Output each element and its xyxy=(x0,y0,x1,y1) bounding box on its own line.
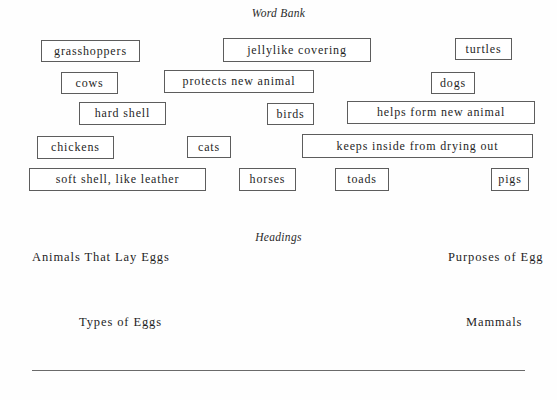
word-bank-box[interactable]: cats xyxy=(187,136,231,158)
word-bank-box-label: keeps inside from drying out xyxy=(337,140,499,152)
word-bank-box-label: grasshoppers xyxy=(54,45,127,57)
word-bank-box[interactable]: chickens xyxy=(37,136,114,159)
word-bank-box[interactable]: keeps inside from drying out xyxy=(302,134,533,158)
word-bank-box[interactable]: grasshoppers xyxy=(41,40,140,62)
word-bank-box-label: jellylike covering xyxy=(247,44,347,56)
word-bank-box-label: hard shell xyxy=(95,107,151,119)
headings-title: Headings xyxy=(0,231,557,243)
heading-label[interactable]: Types of Eggs xyxy=(79,316,162,329)
word-bank-box-label: soft shell, like leather xyxy=(56,173,180,185)
word-bank-box[interactable]: birds xyxy=(267,103,314,125)
word-bank-box[interactable]: protects new animal xyxy=(164,70,314,93)
word-bank-box-label: turtles xyxy=(466,43,502,55)
word-bank-box[interactable]: jellylike covering xyxy=(223,38,371,62)
bottom-horizontal-rule xyxy=(32,370,525,371)
word-bank-box[interactable]: hard shell xyxy=(79,102,166,125)
word-bank-box[interactable]: toads xyxy=(335,168,389,191)
word-bank-box[interactable]: helps form new animal xyxy=(347,101,535,124)
word-bank-box-label: cats xyxy=(198,141,220,153)
word-bank-box-label: protects new animal xyxy=(183,75,296,87)
heading-label[interactable]: Purposes of Egg xyxy=(448,251,543,264)
word-bank-box-label: dogs xyxy=(440,77,466,89)
word-bank-box-label: birds xyxy=(276,108,304,120)
word-bank-box[interactable]: cows xyxy=(61,72,118,94)
word-bank-box-label: cows xyxy=(75,77,103,89)
word-bank-box-label: toads xyxy=(347,173,377,185)
word-bank-box-label: pigs xyxy=(498,173,521,185)
word-bank-box-label: chickens xyxy=(51,141,100,153)
heading-label[interactable]: Mammals xyxy=(466,316,522,329)
word-bank-box[interactable]: horses xyxy=(239,168,296,191)
heading-label[interactable]: Animals That Lay Eggs xyxy=(32,251,170,264)
word-bank-box[interactable]: turtles xyxy=(455,38,512,60)
word-bank-box-label: helps form new animal xyxy=(377,106,505,118)
word-bank-box[interactable]: pigs xyxy=(491,168,529,191)
word-bank-title: Word Bank xyxy=(0,7,557,19)
word-bank-box-label: horses xyxy=(250,173,286,185)
word-bank-box[interactable]: soft shell, like leather xyxy=(29,168,206,191)
word-bank-box[interactable]: dogs xyxy=(431,72,475,94)
worksheet-page: Word Bank grasshoppersjellylike covering… xyxy=(0,0,557,400)
